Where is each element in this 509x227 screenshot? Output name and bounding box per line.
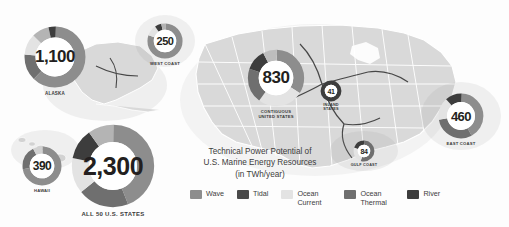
legend-label-ocean-thermal: Ocean Thermal: [360, 189, 394, 207]
legend-label-ocean-current: Ocean Current: [297, 189, 331, 207]
legend-swatch-tidal: [237, 190, 249, 199]
legend-item-tidal[interactable]: Tidal: [237, 189, 268, 199]
donut-all-50-us-states[interactable]: 2,300 ALL 50 U.S. STATES: [70, 123, 156, 209]
legend-item-ocean-current[interactable]: Ocean Current: [281, 189, 331, 207]
donut-west-coast-label: WEST COAST: [150, 62, 180, 67]
donut-all-50-ring: [70, 123, 156, 209]
donut-hawaii-label: HAWAII: [34, 189, 50, 194]
legend-label-tidal: Tidal: [253, 189, 268, 198]
legend-item-ocean-thermal[interactable]: Ocean Thermal: [344, 189, 394, 207]
chart-title-line3: (in TWh/year): [176, 169, 344, 180]
donut-alaska[interactable]: 1,100 ALASKA: [22, 24, 88, 90]
donut-all-50-label: ALL 50 U.S. STATES: [81, 211, 144, 218]
donut-alaska-ring: [22, 24, 88, 90]
donut-east-coast[interactable]: 460 EAST COAST: [437, 92, 485, 140]
donut-east-ring: [437, 92, 485, 140]
donut-gulf-coast[interactable]: 84 GULF COAST: [353, 140, 375, 162]
infographic-canvas: 1,100 ALASKA 250 WEST COAST 830 CONTIGUO…: [0, 0, 509, 227]
legend-swatch-ocean-current: [281, 190, 293, 199]
legend-item-river[interactable]: River: [407, 189, 440, 199]
donut-west-coast[interactable]: 250 WEST COAST: [146, 22, 184, 60]
donut-hawaii[interactable]: 390 HAWAII: [21, 145, 63, 187]
legend-swatch-river: [407, 190, 419, 199]
donut-alaska-label: ALASKA: [45, 92, 65, 97]
donut-gulf-label: GULF COAST: [351, 163, 378, 167]
legend-swatch-ocean-thermal: [344, 190, 356, 199]
donut-inland-label-line2: STATES: [323, 107, 339, 111]
donut-inland-states[interactable]: 41 INLAND STATES: [320, 80, 342, 102]
chart-title-line2: U.S. Marine Energy Resources: [176, 157, 344, 168]
chart-title: Technical Power Potential of U.S. Marine…: [176, 146, 344, 180]
donut-contiguous-ring: [246, 48, 306, 108]
legend-label-wave: Wave: [206, 189, 224, 198]
chart-title-line1: Technical Power Potential of: [176, 146, 344, 157]
donut-east-label: EAST COAST: [447, 142, 476, 147]
donut-hawaii-ring: [21, 145, 63, 187]
legend: Wave Tidal Ocean Current Ocean Thermal R…: [190, 189, 440, 207]
legend-swatch-wave: [190, 190, 202, 199]
donut-inland-ring: [320, 80, 342, 102]
donut-contiguous-united-states[interactable]: 830 CONTIGUOUS UNITED STATES: [246, 48, 306, 108]
donut-gulf-ring: [353, 140, 375, 162]
donut-contiguous-label: CONTIGUOUS UNITED STATES: [258, 110, 293, 119]
donut-contiguous-label-line2: UNITED STATES: [258, 114, 293, 119]
donut-west-coast-ring: [146, 22, 184, 60]
legend-item-wave[interactable]: Wave: [190, 189, 224, 199]
legend-label-river: River: [423, 189, 440, 198]
donut-inland-label: INLAND STATES: [323, 103, 339, 111]
